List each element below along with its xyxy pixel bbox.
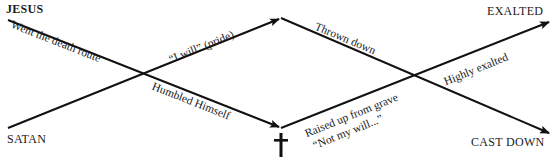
satan-descent-line: [281, 18, 549, 133]
exalted-label: EXALTED: [487, 4, 543, 19]
satan-label: SATAN: [7, 132, 46, 147]
jesus-label: JESUS: [6, 2, 44, 17]
cast-down-label: CAST DOWN: [471, 135, 544, 150]
cross-icon: [274, 133, 288, 157]
